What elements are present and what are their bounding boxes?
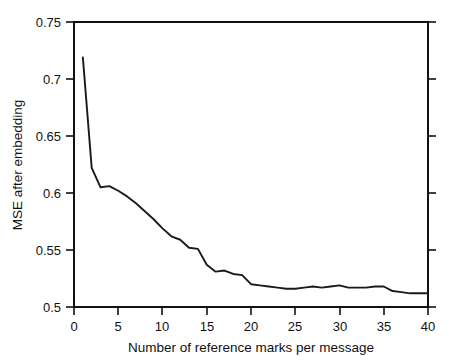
x-tick-label: 40	[421, 319, 435, 334]
y-tick-label: 0.5	[43, 300, 61, 315]
x-tick-label: 25	[288, 319, 302, 334]
x-axis-title: Number of reference marks per message	[128, 340, 374, 355]
x-tick-label: 10	[155, 319, 169, 334]
x-tick-label: 20	[244, 319, 258, 334]
y-tick-label: 0.75	[36, 15, 61, 30]
y-axis-title: MSE after embedding	[10, 100, 25, 231]
x-tick-label: 15	[200, 319, 214, 334]
y-tick-label: 0.6	[43, 186, 61, 201]
y-tick-label: 0.65	[36, 129, 61, 144]
y-tick-label: 0.55	[36, 243, 61, 258]
chart-figure: 0.75 0.7 0.65 0.6 0.55 0.5 0 5 10 15 20 …	[0, 0, 449, 361]
x-tick-label: 0	[70, 319, 77, 334]
y-tick-label: 0.7	[43, 72, 61, 87]
x-tick-label: 30	[333, 319, 347, 334]
mse-line-chart: 0.75 0.7 0.65 0.6 0.55 0.5 0 5 10 15 20 …	[0, 0, 449, 361]
x-tick-label: 5	[114, 319, 121, 334]
x-tick-label: 35	[377, 319, 391, 334]
